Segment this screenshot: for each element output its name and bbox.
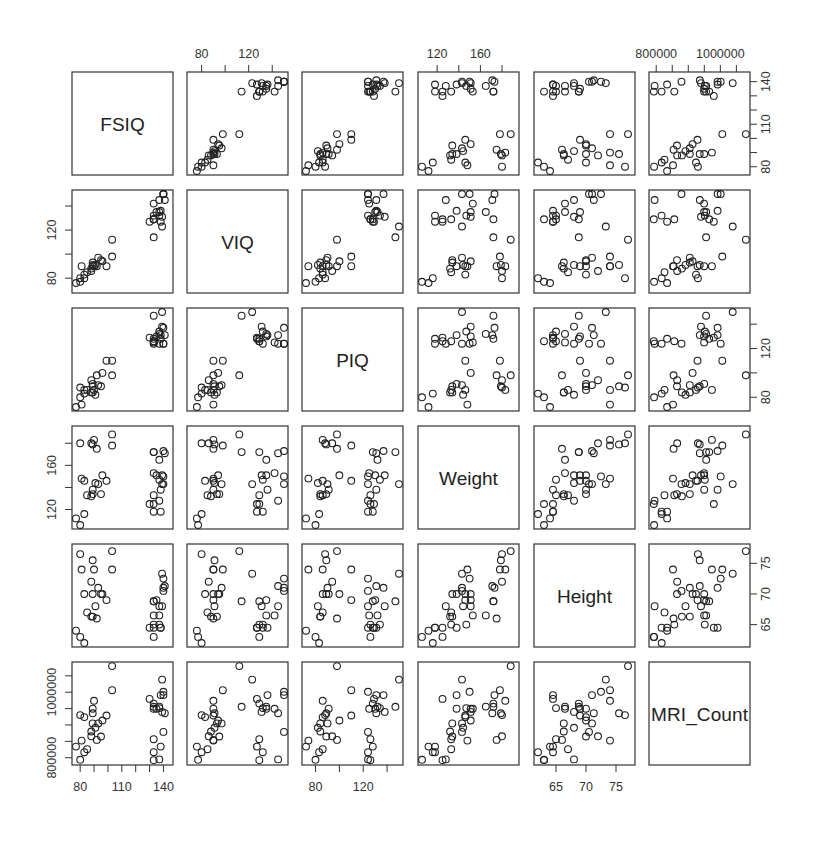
- data-point: [701, 151, 708, 158]
- data-point: [729, 309, 736, 316]
- data-point: [541, 88, 548, 95]
- data-point: [381, 709, 388, 716]
- data-point: [583, 151, 590, 158]
- data-point: [583, 271, 590, 278]
- data-point: [78, 566, 85, 573]
- data-point: [541, 216, 548, 223]
- data-point: [562, 200, 569, 207]
- bottom-tick-label: 70: [579, 780, 593, 794]
- data-point: [499, 275, 506, 282]
- data-point: [216, 733, 223, 740]
- data-point: [419, 756, 426, 763]
- data-point: [467, 141, 474, 148]
- data-point: [499, 551, 506, 558]
- data-point: [493, 615, 500, 622]
- data-point: [507, 372, 514, 379]
- data-point: [210, 697, 217, 704]
- data-point: [701, 263, 708, 270]
- data-point: [682, 480, 689, 487]
- data-point: [432, 335, 439, 342]
- data-point: [271, 705, 278, 712]
- panel-fsiq-vs-height: [534, 72, 635, 175]
- data-point: [91, 697, 98, 704]
- data-point: [710, 93, 717, 100]
- scatterplot-matrix: FSIQVIQPIQWeightHeightMRI_Count801201201…: [0, 0, 818, 841]
- panel-frame: [534, 308, 635, 411]
- panel-fsiq-vs-fsiq: FSIQ: [72, 72, 173, 175]
- data-point: [590, 710, 597, 717]
- data-point: [419, 163, 426, 170]
- right-tick-label: 80: [759, 390, 773, 404]
- data-point: [467, 209, 474, 216]
- panel-mri_count-vs-piq: [302, 662, 403, 765]
- data-point: [334, 737, 341, 744]
- data-point: [109, 253, 116, 260]
- data-point: [329, 268, 336, 275]
- data-point: [392, 703, 399, 710]
- data-point: [590, 450, 597, 457]
- data-point: [497, 357, 504, 364]
- data-point: [714, 207, 721, 214]
- data-point: [490, 312, 497, 319]
- data-point: [499, 578, 506, 585]
- data-point: [88, 493, 95, 500]
- top-tick-label: 160: [470, 47, 491, 61]
- data-point: [381, 213, 388, 220]
- data-point: [146, 501, 153, 508]
- data-point: [459, 309, 466, 316]
- data-point: [674, 257, 681, 264]
- panel-piq-vs-weight: [418, 308, 519, 411]
- data-point: [259, 749, 266, 756]
- data-point: [109, 236, 116, 243]
- data-point: [89, 591, 96, 598]
- panel-mri_count-vs-height: [534, 662, 635, 765]
- data-point: [658, 159, 665, 166]
- data-point: [502, 263, 509, 270]
- data-point: [442, 83, 449, 90]
- data-point: [679, 152, 686, 159]
- data-point: [490, 88, 497, 95]
- data-point: [256, 736, 263, 743]
- data-point: [150, 736, 157, 743]
- data-point: [743, 131, 750, 138]
- data-point: [211, 710, 218, 717]
- top-tick-label: 800000: [635, 47, 677, 61]
- data-point: [490, 234, 497, 241]
- data-point: [459, 676, 466, 683]
- data-point: [607, 162, 614, 169]
- data-point: [373, 583, 380, 590]
- data-point: [607, 263, 614, 270]
- data-point: [249, 309, 256, 316]
- data-point: [275, 756, 282, 763]
- data-point: [89, 557, 96, 564]
- data-point: [78, 737, 85, 744]
- data-point: [256, 492, 263, 499]
- data-point: [743, 431, 750, 438]
- data-point: [541, 163, 548, 170]
- data-point: [109, 663, 116, 670]
- data-point: [464, 401, 471, 408]
- panel-height-vs-piq: [302, 544, 403, 647]
- data-point: [372, 472, 379, 479]
- data-point: [595, 152, 602, 159]
- panel-mri_count-vs-viq: [187, 662, 288, 765]
- data-point: [709, 566, 716, 573]
- data-point: [462, 357, 469, 364]
- data-point: [77, 440, 84, 447]
- right-tick-label: 75: [759, 556, 773, 570]
- data-point: [535, 159, 542, 166]
- data-point: [565, 746, 572, 753]
- data-point: [709, 387, 716, 394]
- data-point: [275, 710, 282, 717]
- left-tick-label: 80: [45, 271, 59, 285]
- panel-viq-vs-viq: VIQ: [187, 190, 288, 293]
- data-point: [449, 720, 456, 727]
- data-point: [202, 477, 209, 484]
- panel-frame: [302, 544, 403, 647]
- data-point: [219, 131, 226, 138]
- data-point: [194, 627, 201, 634]
- data-point: [507, 663, 514, 670]
- data-point: [365, 729, 372, 736]
- data-point: [159, 676, 166, 683]
- data-point: [373, 486, 380, 493]
